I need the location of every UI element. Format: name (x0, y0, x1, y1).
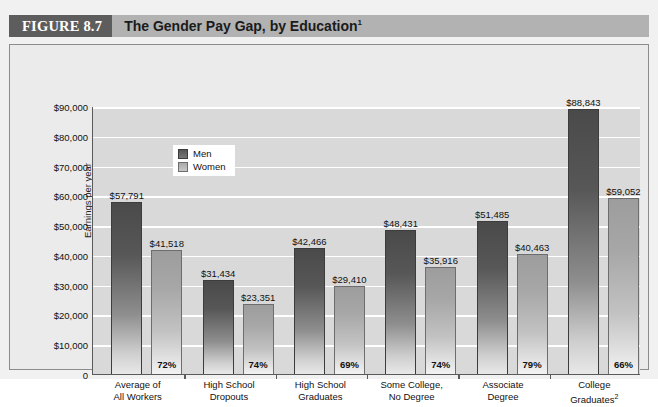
bar-women: $40,46379% (517, 254, 548, 374)
y-axis-tick-label: $70,000 (32, 161, 88, 172)
figure-title: The Gender Pay Gap, by Education1 (112, 18, 362, 34)
figure-title-text: The Gender Pay Gap, by Education (124, 18, 357, 34)
bar-men: $88,843 (568, 109, 599, 374)
bar-men: $57,791 (111, 202, 142, 374)
bar-value-label: $29,410 (332, 274, 366, 285)
bar-ratio-label: 72% (157, 359, 176, 370)
y-axis-tick-label: $80,000 (32, 131, 88, 142)
x-axis-category-label: CollegeGraduates2 (549, 379, 640, 406)
legend-swatch-icon (178, 149, 188, 159)
bar-ratio-label: 74% (431, 359, 450, 370)
y-axis-tick-labels: $90,000$80,000$70,000$60,000$50,000$40,0… (32, 105, 88, 377)
legend-item-label: Men (193, 148, 211, 159)
figure-number: FIGURE 8.7 (9, 15, 112, 37)
y-axis-tick-label: $90,000 (32, 102, 88, 113)
y-axis-tick-label: $40,000 (32, 250, 88, 261)
y-axis-tick-label: $30,000 (32, 280, 88, 291)
x-axis-category-label: AssociateDegree (457, 379, 548, 403)
x-axis-category-labels: Average ofAll WorkersHigh SchoolDropouts… (92, 379, 640, 407)
legend-item-men: Men (178, 148, 226, 159)
y-axis-tick-label: $20,000 (32, 310, 88, 321)
bar-value-label: $40,463 (515, 242, 549, 253)
x-axis-category-label: Average ofAll Workers (92, 379, 183, 403)
bar-value-label: $51,485 (475, 209, 509, 220)
legend-item-label: Women (193, 161, 226, 172)
bar-men: $42,466 (294, 248, 325, 374)
figure-header-bar: FIGURE 8.7 The Gender Pay Gap, by Educat… (9, 15, 649, 37)
bar-value-label: $88,843 (566, 97, 600, 108)
legend-swatch-icon (178, 162, 188, 172)
bar-ratio-label: 74% (249, 359, 268, 370)
bar-value-label: $23,351 (241, 292, 275, 303)
gridline (93, 137, 640, 139)
gridline (93, 107, 640, 109)
y-axis-tick-label: $50,000 (32, 221, 88, 232)
bar-men: $48,431 (385, 230, 416, 374)
bar-value-label: $48,431 (384, 218, 418, 229)
bar-value-label: $35,916 (424, 255, 458, 266)
x-axis-category-label: Some College,No Degree (366, 379, 457, 403)
bar-men: $51,485 (477, 221, 508, 374)
x-axis-category-label: High SchoolGraduates (275, 379, 366, 403)
y-axis-tick-label: 0 (32, 370, 88, 381)
bar-women: $41,51872% (151, 250, 182, 374)
bar-ratio-label: 79% (523, 359, 542, 370)
y-axis-tick-label: $60,000 (32, 191, 88, 202)
y-axis-tick-label: $10,000 (32, 340, 88, 351)
legend-item-women: Women (178, 161, 226, 172)
bar-women: $35,91674% (425, 267, 456, 374)
bar-ratio-label: 69% (340, 359, 359, 370)
bar-value-label: $59,052 (606, 186, 640, 197)
bar-women: $59,05266% (608, 198, 639, 374)
bar-value-label: $31,434 (201, 268, 235, 279)
bar-value-label: $57,791 (110, 190, 144, 201)
bar-value-label: $42,466 (292, 236, 326, 247)
gridline (93, 226, 640, 228)
x-axis-category-label: High SchoolDropouts (183, 379, 274, 403)
chart-legend: MenWomen (173, 145, 235, 176)
gridline (93, 196, 640, 198)
figure-title-footnote-marker: 1 (358, 18, 362, 27)
bar-women: $23,35174% (243, 304, 274, 374)
chart-panel: Earnings per year $90,000$80,000$70,000$… (9, 44, 649, 370)
bar-women: $29,41069% (334, 286, 365, 374)
bar-ratio-label: 66% (614, 359, 633, 370)
bar-men: $31,434 (203, 280, 234, 374)
bar-value-label: $41,518 (150, 238, 184, 249)
